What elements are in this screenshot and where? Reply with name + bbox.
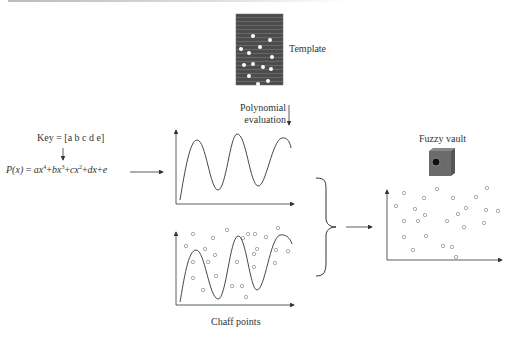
merge-brace <box>316 178 336 276</box>
term-a: ax <box>34 164 43 175</box>
safe-icon <box>429 148 455 176</box>
chaff-graph <box>176 226 294 305</box>
polynomial-equation: P(x) = ax4+bx3+cx2+dx+e <box>6 164 107 175</box>
equation-equals: = <box>23 164 34 175</box>
fuzzy-vault-label: Fuzzy vault <box>419 133 466 144</box>
fuzzy-vault-graph <box>387 186 502 260</box>
fingerprint-icon <box>236 14 283 86</box>
chaff-label: Chaff points <box>211 316 261 327</box>
template-label: Template <box>289 43 326 54</box>
polynomial-label-line2: evaluation <box>238 114 286 125</box>
equation-lhs: P(x) <box>6 164 23 175</box>
term-e: e <box>103 164 107 175</box>
key-label: Key = [a b c d e] <box>37 132 104 143</box>
term-c: cx <box>70 164 79 175</box>
term-b: bx <box>52 164 61 175</box>
polynomial-graph <box>176 130 294 204</box>
term-d: dx <box>88 164 97 175</box>
polynomial-label-line1: Polynomial <box>238 102 286 113</box>
